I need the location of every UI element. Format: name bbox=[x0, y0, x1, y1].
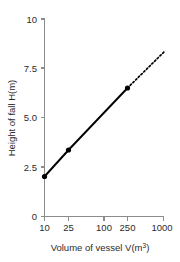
x-axis-title-base: Volume of vessel V(m bbox=[51, 242, 143, 253]
x-axis-title-close: ) bbox=[146, 242, 149, 253]
x-tick-label-1000: 1000 bbox=[151, 222, 172, 233]
x-tick-label-10: 10 bbox=[39, 222, 50, 233]
line-chart: 0 2.5 5.0 7.5 10 10 25 100 250 1000 bbox=[0, 0, 180, 262]
chart-figure: 0 2.5 5.0 7.5 10 10 25 100 250 1000 bbox=[0, 0, 180, 262]
data-point-1 bbox=[42, 174, 47, 179]
x-tick-label-25: 25 bbox=[63, 222, 74, 233]
x-tick-label-100: 100 bbox=[96, 222, 112, 233]
y-tick-label-10: 10 bbox=[26, 14, 37, 25]
y-axis-title-text: Height of fall H(m) bbox=[6, 80, 17, 157]
y-tick-label-5point0: 5.0 bbox=[24, 112, 37, 123]
y-axis-title: Height of fall H(m) bbox=[6, 80, 17, 157]
x-axis-title-text: Volume of vessel V(m3) bbox=[51, 242, 150, 254]
y-tick-label-2point5: 2.5 bbox=[24, 162, 37, 173]
y-tick-label-0: 0 bbox=[32, 211, 37, 222]
data-point-2 bbox=[66, 147, 71, 152]
x-axis-title: Volume of vessel V(m3) bbox=[51, 242, 150, 254]
x-tick-label-250: 250 bbox=[120, 222, 136, 233]
y-tick-label-7point5: 7.5 bbox=[24, 63, 37, 74]
data-point-3 bbox=[125, 85, 130, 90]
